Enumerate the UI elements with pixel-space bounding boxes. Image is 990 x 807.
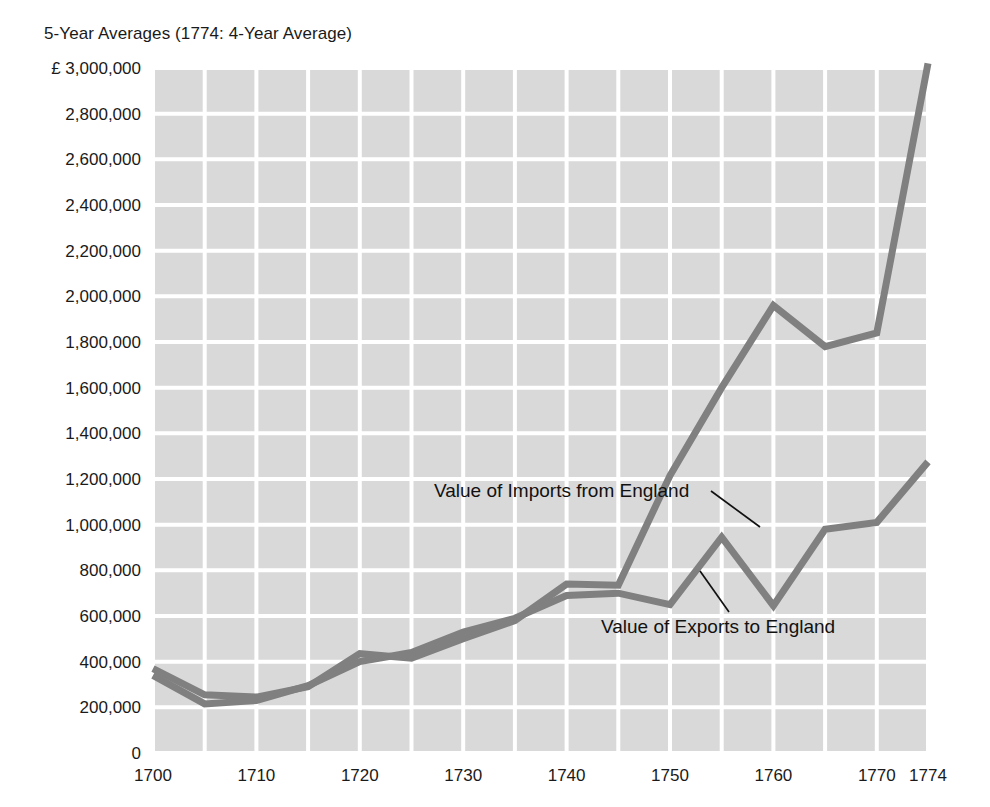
annotation-exports-label: Value of Exports to England xyxy=(601,616,835,637)
y-axis-tick-label: 1,600,000 xyxy=(65,379,141,398)
annotation-imports-label: Value of Imports from England xyxy=(434,480,689,501)
y-axis-tick-label: 1,200,000 xyxy=(65,470,141,489)
plot-background-rect xyxy=(153,68,928,753)
x-axis-tick-label: 1720 xyxy=(341,766,379,785)
y-axis-tick-label: 400,000 xyxy=(80,653,141,672)
x-axis-tick-label: 1740 xyxy=(548,766,586,785)
y-axis-tick-label: 2,000,000 xyxy=(65,287,141,306)
y-axis-tick-label: 2,200,000 xyxy=(65,242,141,261)
y-axis-tick-label: 1,000,000 xyxy=(65,516,141,535)
chart-figure: 5-Year Averages (1774: 4-Year Average) £… xyxy=(0,0,990,807)
y-axis-tick-label: 800,000 xyxy=(80,561,141,580)
x-axis-tick-labels: 170017101720173017401750176017701774 xyxy=(134,766,947,785)
x-axis-tick-label: 1700 xyxy=(134,766,172,785)
x-axis-tick-label: 1730 xyxy=(444,766,482,785)
y-axis-tick-labels: £ 3,000,0002,800,0002,600,0002,400,0002,… xyxy=(51,59,141,763)
y-axis-tick-label: 1,800,000 xyxy=(65,333,141,352)
line-chart: £ 3,000,0002,800,0002,600,0002,400,0002,… xyxy=(0,0,990,807)
y-axis-tick-label: 0 xyxy=(132,744,141,763)
x-axis-tick-label: 1774 xyxy=(909,766,947,785)
y-axis-tick-label: 600,000 xyxy=(80,607,141,626)
x-axis-tick-label: 1770 xyxy=(858,766,896,785)
plot-background xyxy=(153,68,928,753)
y-axis-tick-label: 2,400,000 xyxy=(65,196,141,215)
x-axis-tick-label: 1750 xyxy=(651,766,689,785)
y-axis-tick-label: 1,400,000 xyxy=(65,424,141,443)
plot-area-wrapper: £ 3,000,0002,800,0002,600,0002,400,0002,… xyxy=(0,0,990,807)
y-axis-tick-label: 2,800,000 xyxy=(65,105,141,124)
y-axis-tick-label: £ 3,000,000 xyxy=(51,59,141,78)
x-axis-tick-label: 1710 xyxy=(237,766,275,785)
x-axis-tick-label: 1760 xyxy=(754,766,792,785)
y-axis-tick-label: 2,600,000 xyxy=(65,150,141,169)
y-axis-tick-label: 200,000 xyxy=(80,698,141,717)
